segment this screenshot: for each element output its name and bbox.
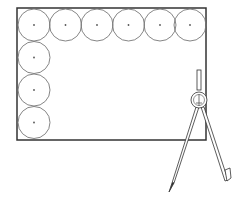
circle-center-dot — [189, 24, 191, 26]
diagram-svg — [0, 0, 232, 197]
circle-center-dot — [65, 24, 67, 26]
circle-center-dot — [128, 24, 130, 26]
circle-center-dot — [33, 57, 35, 59]
compass-icon — [169, 70, 231, 192]
circle-center-dot — [33, 122, 35, 124]
circles-group — [18, 9, 206, 139]
circle-center-dot — [33, 89, 35, 91]
circle-center-dot — [33, 24, 35, 26]
circle-center-dot — [96, 24, 98, 26]
diagram-canvas — [0, 0, 232, 197]
circle-center-dot — [159, 24, 161, 26]
rectangle — [17, 8, 206, 140]
